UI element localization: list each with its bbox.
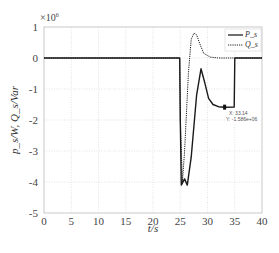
legend: P_s Q_s <box>225 29 261 51</box>
y-tick: -3 <box>29 145 39 157</box>
y-tick: 0 <box>33 52 39 64</box>
x-tick: 40 <box>257 215 269 227</box>
y-tick: -2 <box>29 114 38 126</box>
y-tick: -1 <box>29 83 38 95</box>
datatip: X: 33.14 Y: -1.586e+06 <box>225 109 261 123</box>
y-axis-label: p_s/W, Q_s/Var <box>8 85 20 155</box>
datatip-marker <box>223 105 226 110</box>
x-tick: 25 <box>175 215 187 227</box>
legend-label-qs: Q_s <box>245 40 258 49</box>
legend-label-ps: P_s <box>244 30 257 39</box>
x-tick: 5 <box>69 215 75 227</box>
x-tick: 0 <box>41 215 47 227</box>
chart: 0510152025303540 10-1-2-3-4-5 ×106 P_s Q… <box>0 0 279 253</box>
y-tick-labels: 10-1-2-3-4-5 <box>29 21 39 219</box>
y-tick: -4 <box>29 176 39 188</box>
x-axis-label: t/s <box>148 222 158 234</box>
datatip-y: Y: -1.586e+06 <box>226 116 257 122</box>
x-tick: 10 <box>93 215 105 227</box>
x-tick: 30 <box>202 215 214 227</box>
x-tick: 35 <box>229 215 241 227</box>
y-tick: -5 <box>29 207 39 219</box>
x-tick: 15 <box>120 215 132 227</box>
y-tick: 1 <box>33 21 39 33</box>
y-multiplier: ×106 <box>40 12 59 23</box>
